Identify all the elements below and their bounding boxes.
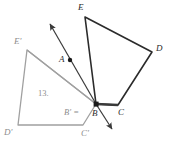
point-A-dot xyxy=(68,58,72,62)
vertex-label-C-prime: C' xyxy=(81,129,89,138)
mapping-note-label: B' = xyxy=(64,108,79,117)
vertex-label-A: A xyxy=(59,55,65,64)
vertex-label-C: C xyxy=(118,108,124,117)
preimage-quadrilateral-EDCB xyxy=(85,17,152,105)
geometry-figure: E D C B A E' D' C' 13. B' = xyxy=(0,0,170,152)
vertex-label-D-prime: D' xyxy=(4,128,12,137)
segment-BC-emphasis xyxy=(96,104,118,105)
vertex-label-E: E xyxy=(78,3,84,12)
ray-lower-right xyxy=(96,104,112,129)
image-quadrilateral-primed xyxy=(18,50,96,125)
ray-through-point-A xyxy=(50,24,96,104)
vertex-label-B: B xyxy=(92,109,98,118)
vertex-label-E-prime: E' xyxy=(14,37,21,46)
point-B-dot xyxy=(94,102,99,107)
vertex-label-D: D xyxy=(156,44,163,53)
step-number-label: 13. xyxy=(38,89,49,98)
